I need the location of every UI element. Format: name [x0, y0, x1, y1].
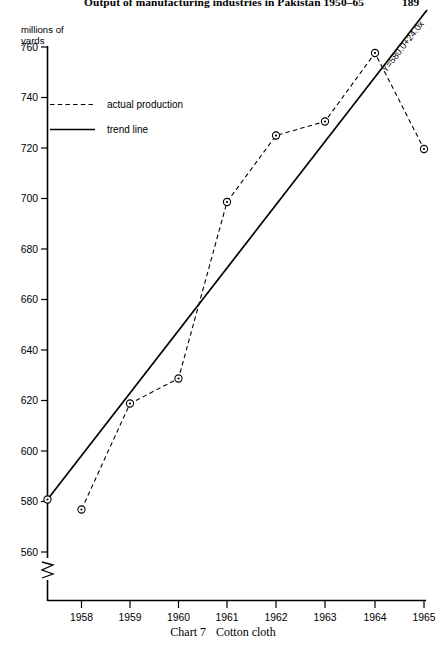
trend-line-series — [48, 10, 428, 500]
caption-label: Chart 7 — [170, 625, 206, 639]
x-tick-label: 1961 — [215, 612, 238, 623]
x-tick-label: 1960 — [167, 612, 190, 623]
x-tick-label: 1958 — [70, 612, 93, 623]
actual-production-series — [82, 53, 425, 510]
y-tick-label: 660 — [21, 294, 39, 305]
x-axis-ticks — [82, 601, 425, 609]
x-tick-label: 1959 — [118, 612, 141, 623]
y-tick-label: 560 — [21, 547, 39, 558]
caption-text: Cotton cloth — [216, 625, 276, 639]
x-tick-label: 1962 — [264, 612, 287, 623]
y-tick-label: 640 — [21, 345, 39, 356]
y-tick-label: 620 — [21, 395, 39, 406]
y-tick-label: 760 — [21, 42, 39, 53]
y-tick-label: 700 — [21, 193, 39, 204]
axis-break-icon — [42, 562, 53, 578]
chart-caption: Chart 7Cotton cloth — [0, 625, 446, 640]
chart-plot-area: 760 740 720 700 680 660 640 620 600 580 … — [0, 0, 446, 647]
chart-page: Output of manufacturing industries in Pa… — [0, 0, 446, 647]
legend-label-trend-line: trend line — [107, 124, 149, 135]
data-point-markers — [78, 49, 428, 513]
y-tick-label: 680 — [21, 244, 39, 255]
y-axis-ticks — [41, 47, 48, 552]
x-tick-label: 1963 — [313, 612, 336, 623]
trend-equation-annotation: Y=580.0+24.0x — [380, 19, 427, 75]
y-tick-label: 720 — [21, 143, 39, 154]
y-tick-label: 580 — [21, 496, 39, 507]
x-tick-label: 1965 — [412, 612, 435, 623]
y-tick-label: 600 — [21, 446, 39, 457]
x-tick-label: 1964 — [363, 612, 386, 623]
trend-origin-marker-dot — [46, 498, 48, 500]
legend-label-actual-production: actual production — [107, 99, 183, 110]
legend: actual production trend line — [50, 99, 183, 135]
y-tick-label: 740 — [21, 92, 39, 103]
